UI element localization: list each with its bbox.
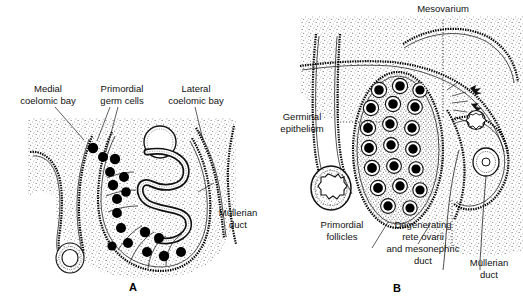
label-primordial-follicles-line2: follicles — [326, 231, 357, 242]
label-mesovarium: Mesovarium — [417, 3, 469, 14]
label-germinal-epithelium-line1: Germinal — [283, 111, 322, 122]
label-primordial-germ-cells-line2: germ cells — [100, 95, 144, 106]
label-mullerian-duct-b-line1: Müllerian — [470, 257, 509, 268]
label-medial-coelomic-bay-line2: coelomic bay — [20, 95, 76, 106]
panel-b: Mesovarium Germinal epithelium Primordia… — [280, 3, 523, 294]
label-mullerian-duct-a-line1: Müllerian — [219, 207, 258, 218]
label-germinal-epithelium-line2: epithelium — [280, 123, 323, 134]
panel-a: Medial coelomic bay Primordial germ cell… — [20, 83, 257, 293]
label-medial-coelomic-bay-line1: Medial — [34, 83, 62, 94]
label-degenerating-line1: Degenerating — [394, 219, 451, 230]
label-degenerating-line3: and mesonephric — [387, 243, 460, 254]
label-mullerian-duct-a-line2: duct — [229, 219, 247, 230]
label-primordial-follicles-line1: Primordial — [321, 219, 364, 230]
panel-letter-a: A — [129, 281, 137, 293]
label-primordial-germ-cells-line1: Primordial — [101, 83, 144, 94]
figure-ovary-development: Medial coelomic bay Primordial germ cell… — [0, 0, 523, 303]
label-degenerating-line4: duct — [414, 255, 432, 266]
label-mullerian-duct-b-line2: duct — [480, 269, 498, 280]
label-lateral-coelomic-bay-line1: Lateral — [181, 83, 210, 94]
label-lateral-coelomic-bay-line2: coelomic bay — [168, 95, 224, 106]
label-degenerating-line2: rete ovarii — [402, 231, 444, 242]
panel-letter-b: B — [393, 282, 401, 294]
primordial-follicle-bulb — [311, 166, 351, 210]
